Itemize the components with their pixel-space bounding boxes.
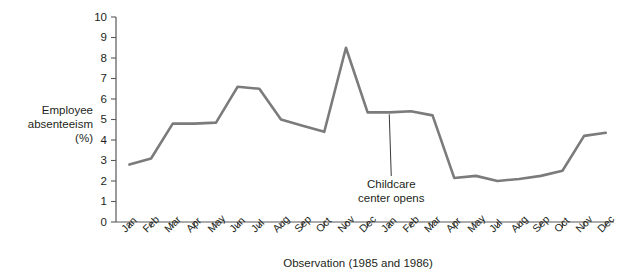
y-axis-label: Employee absenteeism (%) <box>28 104 93 144</box>
x-axis-tick-label: Sep <box>292 213 314 235</box>
x-axis-tick-label: Aug <box>270 213 292 235</box>
y-axis-tick-label: 5 <box>101 113 107 125</box>
x-axis-tick-label: Mar <box>162 213 184 235</box>
annotation-leader-line <box>389 114 391 176</box>
annotation-childcare-center-opens: Childcare center opens <box>358 178 425 204</box>
y-axis-label-line-1: Employee <box>42 104 93 116</box>
absenteeism-series-line <box>129 48 605 181</box>
x-axis-tick-label: Jan <box>378 214 399 235</box>
annotation-text-line-1: Childcare <box>367 178 416 190</box>
absenteeism-line-chart: Employee absenteeism (%) 012345678910 Ja… <box>0 0 628 278</box>
y-axis-tick-label: 2 <box>101 175 107 187</box>
x-axis-tick-label: Feb <box>400 213 421 234</box>
x-axis-tick-label: Oct <box>313 214 333 234</box>
x-axis-tick-label: Aug <box>508 213 530 235</box>
y-axis-label-line-2: absenteeism <box>28 118 93 130</box>
x-axis-tick-label: Oct <box>551 214 571 234</box>
x-axis-tick-label: Feb <box>140 213 161 234</box>
y-axis-tick-label: 4 <box>101 134 108 146</box>
x-axis-tick-label: Mar <box>421 213 443 235</box>
y-axis-label-line-3: (%) <box>75 132 93 144</box>
x-axis-tick-labels: JanFebMarAprMayJunJulAugSepOctNovDecJanF… <box>118 211 616 234</box>
y-axis-tick-label: 0 <box>101 216 107 228</box>
x-axis-tick-label: Jan <box>118 214 139 235</box>
chart-figure: Employee absenteeism (%) 012345678910 Ja… <box>0 0 628 278</box>
annotation-text-line-2: center opens <box>358 192 425 204</box>
x-axis-tick-label: Apr <box>183 214 203 234</box>
y-axis-tick-label: 6 <box>101 93 107 105</box>
x-axis-tick-label: Nov <box>573 212 595 234</box>
x-axis-tick-label: Apr <box>443 214 463 234</box>
x-axis-tick-label: Nov <box>335 212 357 234</box>
x-axis-tick-label: Dec <box>595 213 617 235</box>
x-axis-tick-label: Sep <box>530 213 552 235</box>
x-axis-tick-label: Jul <box>486 216 504 234</box>
y-axis-tick-label: 1 <box>101 195 107 207</box>
y-axis-tick-label: 8 <box>101 52 107 64</box>
x-axis-tick-label: May <box>205 211 228 234</box>
y-axis-tick-label: 10 <box>94 11 107 23</box>
x-axis-title: Observation (1985 and 1986) <box>283 257 433 269</box>
y-axis-ticks: 012345678910 <box>94 11 116 228</box>
x-axis-tick-label: Jun <box>227 214 248 235</box>
x-axis-tick-label: May <box>465 211 488 234</box>
y-axis-tick-label: 3 <box>101 154 107 166</box>
y-axis-tick-label: 9 <box>101 31 107 43</box>
x-axis-tick-label: Dec <box>357 213 379 235</box>
y-axis-tick-label: 7 <box>101 72 107 84</box>
x-axis-tick-label: Jul <box>248 216 266 234</box>
